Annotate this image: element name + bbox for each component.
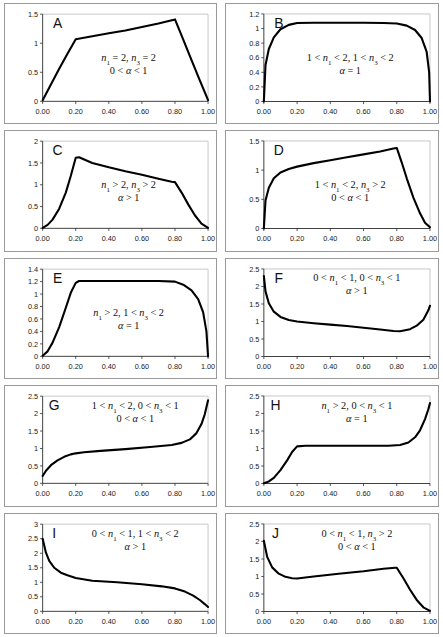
y-tick-label: 1 [255,166,259,175]
panel-j: 00.511.522.50.000.200.400.600.801.00J0 <… [221,510,443,637]
y-tick-label: 0.8 [249,39,259,48]
panel-letter: E [53,270,62,286]
x-tick-label: 0.20 [290,234,304,243]
y-tick-label: 0 [255,352,259,361]
y-tick-label: 0 [34,352,38,361]
y-tick-label: 1.2 [249,10,259,19]
y-tick-label: 0.4 [28,327,38,336]
x-tick-label: 1.00 [201,616,215,625]
chart-e: 00.20.40.60.811.21.40.000.200.400.600.80… [5,259,216,378]
x-tick-label: 0.00 [257,362,271,371]
x-tick-label: 0.40 [323,617,337,626]
panel-letter: G [49,397,60,413]
chart-f: 00.511.522.50.000.200.400.600.801.00F0 <… [226,259,438,378]
annotation: α > 1 [118,192,140,203]
chart-h: 00.511.522.50.000.200.400.600.801.00Hn1 … [226,386,438,505]
y-tick-label: 0.6 [249,53,259,62]
x-tick-label: 0.40 [323,489,337,498]
x-tick-label: 0.40 [102,107,116,116]
figure-panel-grid: 00.511.50.000.200.400.600.801.00An1 = 2,… [0,0,443,637]
annotation: 0 < α < 1 [331,192,369,203]
y-tick-label: 0 [255,607,259,616]
panel-border-b: 00.20.40.60.811.20.000.200.400.600.801.0… [225,3,439,124]
x-tick-label: 0.80 [390,362,404,371]
x-tick-label: 0.80 [390,617,404,626]
x-tick-label: 0.20 [69,362,83,371]
y-tick-label: 2 [34,548,38,557]
panel-i: 00.511.522.530.000.200.400.600.801.00I0 … [0,510,221,637]
x-tick-label: 0.40 [102,234,116,243]
y-tick-label: 0 [255,97,259,106]
x-tick-label: 0.60 [135,234,149,243]
x-tick-label: 0.20 [69,107,83,116]
y-tick-label: 1 [255,24,259,33]
x-tick-label: 1.00 [423,489,437,498]
y-tick-label: 1.5 [249,137,259,146]
y-tick-label: 1.5 [28,10,38,19]
y-tick-label: 0.5 [28,462,38,471]
y-tick-label: 2 [255,409,259,418]
x-tick-label: 0.80 [168,616,182,625]
annotation: α = 1 [339,65,361,76]
x-tick-label: 0.00 [36,489,50,498]
x-tick-label: 0.60 [356,489,370,498]
x-tick-label: 0.60 [356,362,370,371]
x-tick-label: 0.00 [36,107,50,116]
y-tick-label: 0.2 [249,83,259,92]
y-tick-label: 1 [34,578,38,587]
annotation: α = 1 [118,319,140,330]
x-tick-label: 0.00 [257,234,271,243]
x-tick-label: 0.20 [290,489,304,498]
panel-border-j: 00.511.522.50.000.200.400.600.801.00J0 <… [225,513,439,634]
chart-g: 00.511.522.50.000.200.400.600.801.00G1 <… [5,386,216,505]
annotation: 0 < α < 1 [110,65,148,76]
panel-h: 00.511.522.50.000.200.400.600.801.00Hn1 … [221,382,443,509]
y-tick-label: 1.2 [28,277,38,286]
chart-i: 00.511.522.530.000.200.400.600.801.00I0 … [5,514,216,633]
x-tick-label: 1.00 [423,107,437,116]
y-tick-label: 0 [34,479,38,488]
y-tick-label: 2.5 [249,264,259,273]
x-tick-label: 0.40 [323,362,337,371]
panel-a: 00.511.50.000.200.400.600.801.00An1 = 2,… [0,0,221,127]
y-tick-label: 1.5 [28,563,38,572]
panel-letter: F [275,270,284,286]
x-tick-label: 0.80 [168,234,182,243]
annotation: n1 > 2, 1 < n3 < 2 [93,307,164,321]
panel-letter: D [274,142,284,158]
panel-border-e: 00.20.40.60.811.21.40.000.200.400.600.80… [4,258,217,379]
y-tick-label: 1.5 [28,427,38,436]
x-tick-label: 0.80 [390,107,404,116]
x-tick-label: 1.00 [201,489,215,498]
chart-j: 00.511.522.50.000.200.400.600.801.00J0 <… [226,514,438,633]
y-tick-label: 1 [34,181,38,190]
x-tick-label: 0.40 [102,489,116,498]
y-tick-label: 2 [34,137,38,146]
panel-letter: B [274,15,283,31]
x-tick-label: 0.40 [102,362,116,371]
x-tick-label: 0.80 [390,489,404,498]
y-tick-label: 2.5 [249,519,259,528]
annotation: α = 1 [346,413,368,424]
y-tick-label: 2 [34,409,38,418]
x-tick-label: 0.20 [290,617,304,626]
x-tick-label: 1.00 [423,362,437,371]
panel-letter: H [270,397,280,413]
y-tick-label: 1 [255,572,259,581]
x-tick-label: 0.60 [135,362,149,371]
panel-b: 00.20.40.60.811.20.000.200.400.600.801.0… [221,0,443,127]
x-tick-label: 0.00 [257,489,271,498]
y-tick-label: 2.5 [28,392,38,401]
data-curve [43,401,208,477]
x-tick-label: 0.40 [102,616,116,625]
panel-border-h: 00.511.522.50.000.200.400.600.801.00Hn1 … [225,385,439,506]
panel-border-d: 00.511.50.000.200.400.600.801.00D1 < n1 … [225,130,439,251]
y-tick-label: 1.4 [28,265,38,274]
chart-d: 00.511.50.000.200.400.600.801.00D1 < n1 … [226,131,438,250]
x-tick-label: 0.20 [69,616,83,625]
y-tick-label: 0.5 [28,68,38,77]
x-tick-label: 0.60 [135,107,149,116]
y-tick-label: 1.5 [249,299,259,308]
y-tick-label: 2.5 [28,534,38,543]
y-tick-label: 0.5 [28,203,38,212]
